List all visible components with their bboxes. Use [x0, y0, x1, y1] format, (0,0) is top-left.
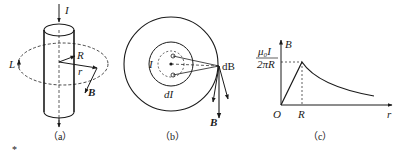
y-axis-label: B	[285, 38, 292, 50]
conductor-cylinder	[44, 24, 74, 124]
y-tick-numerator: μ₀I	[257, 45, 272, 57]
caption-b: （b）	[160, 131, 185, 142]
amperian-loop	[18, 43, 108, 85]
current-label-a: I	[64, 4, 70, 16]
ray-top	[173, 56, 219, 66]
figure-c: B r O R μ₀I 2πR （c）	[256, 38, 392, 142]
x-tick-R: R	[297, 108, 305, 120]
current-label-b: I	[148, 58, 154, 70]
caption-c: （c）	[308, 131, 332, 142]
origin-label: O	[273, 108, 281, 120]
caption-a: （a）	[48, 131, 72, 142]
x-axis-label: r	[387, 108, 392, 120]
B-vs-r-curve	[281, 62, 374, 105]
y-tick-denominator: 2πR	[257, 58, 275, 70]
distance-label: r	[78, 65, 83, 77]
figure-b: I dI dB B （b）	[124, 17, 235, 142]
ray-bottom	[173, 66, 219, 75]
radius-arrow	[59, 56, 75, 62]
figure-a: I L R r B （a）	[8, 4, 108, 142]
field-label-a: B	[87, 86, 95, 98]
element-label: dI	[164, 88, 175, 100]
loop-label: L	[8, 58, 15, 70]
footnote-mark: *	[12, 144, 17, 155]
field-element-label: dB	[222, 60, 235, 72]
field-label-b: B	[209, 116, 217, 128]
radius-label: R	[76, 49, 84, 61]
